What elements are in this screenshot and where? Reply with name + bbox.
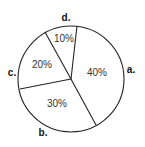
category-label-c: c. (8, 67, 17, 78)
category-label-a: a. (127, 64, 136, 75)
slice-value-b: 30% (47, 98, 67, 109)
category-label-b: b. (39, 127, 48, 138)
category-label-d: d. (62, 12, 71, 23)
pie-chart: 40% 30% 20% 10% a. b. c. d. (0, 0, 145, 147)
slice-value-d: 10% (54, 33, 74, 44)
slice-value-a: 40% (87, 67, 107, 78)
slice-value-c: 20% (32, 59, 52, 70)
